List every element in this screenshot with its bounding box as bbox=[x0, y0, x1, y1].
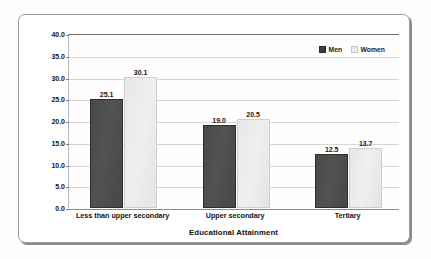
chart-figure-frame: Proportion of people with disabilities 0… bbox=[18, 14, 410, 243]
bar-men[interactable]: 12.5 bbox=[315, 154, 348, 208]
y-axis-tick-label: 0.0 bbox=[39, 205, 65, 212]
x-axis-title: Educational Attainment bbox=[68, 228, 399, 237]
bar-men[interactable]: 25.1 bbox=[90, 99, 123, 208]
y-axis-tick-label: 10.0 bbox=[39, 161, 65, 168]
y-axis-tickmark bbox=[66, 209, 69, 210]
y-axis-tick-label: 30.0 bbox=[39, 74, 65, 81]
bar-women[interactable]: 30.1 bbox=[124, 77, 157, 208]
bar-value-label: 30.1 bbox=[134, 69, 148, 76]
axis-baseline bbox=[69, 209, 399, 210]
bars-layer: 25.130.119.020.512.513.7 bbox=[69, 35, 399, 208]
bar-group: 19.020.5 bbox=[203, 35, 270, 208]
bar-value-label: 12.5 bbox=[325, 146, 339, 153]
y-axis-tick-labels: 0.05.010.015.020.025.030.035.040.0 bbox=[39, 34, 65, 208]
x-axis-category-labels: Less than upper secondaryUpper secondary… bbox=[68, 211, 399, 225]
bar-women[interactable]: 20.5 bbox=[237, 119, 270, 208]
y-axis-tick-label: 40.0 bbox=[39, 31, 65, 38]
bar-men[interactable]: 19.0 bbox=[203, 125, 236, 208]
y-axis-tick-label: 20.0 bbox=[39, 118, 65, 125]
bar-group: 25.130.1 bbox=[90, 35, 157, 208]
y-axis-tick-label: 15.0 bbox=[39, 139, 65, 146]
bar-value-label: 25.1 bbox=[100, 91, 114, 98]
y-axis-tick-label: 25.0 bbox=[39, 96, 65, 103]
bar-value-label: 20.5 bbox=[246, 111, 260, 118]
x-category-label: Tertiary bbox=[335, 211, 361, 220]
y-axis-tick-label: 35.0 bbox=[39, 52, 65, 59]
bar-value-label: 13.7 bbox=[359, 140, 373, 147]
x-category-label: Upper secondary bbox=[206, 211, 265, 220]
bar-value-label: 19.0 bbox=[212, 117, 226, 124]
bar-group: 12.513.7 bbox=[315, 35, 382, 208]
plot-area: Men Women 25.130.119.020.512.513.7 bbox=[68, 34, 399, 208]
x-category-label: Less than upper secondary bbox=[76, 211, 169, 220]
bar-women[interactable]: 13.7 bbox=[349, 148, 382, 208]
y-axis-tick-label: 5.0 bbox=[39, 183, 65, 190]
